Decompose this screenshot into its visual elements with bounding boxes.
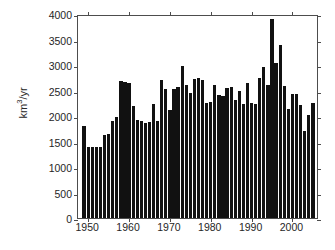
bar (99, 147, 102, 218)
bar (295, 94, 298, 218)
y-axis-tick-label: 1500 (49, 137, 72, 149)
x-axis-tick (88, 218, 89, 222)
y-axis-tick (74, 93, 78, 94)
bar (262, 67, 265, 218)
bar (283, 86, 286, 218)
bar (230, 87, 233, 218)
bar (254, 104, 257, 218)
bar (303, 131, 306, 218)
bar (107, 134, 110, 218)
y-axis-tick-label: 1000 (49, 162, 72, 174)
bar (299, 105, 302, 218)
bar (119, 81, 122, 218)
bar (103, 135, 106, 218)
bar (176, 87, 179, 218)
figure: km3/yr 05001000150020002500300035004000 … (0, 0, 335, 250)
x-axis-tick (129, 218, 130, 222)
y-axis-tick (74, 42, 78, 43)
y-axis-tick (74, 67, 78, 68)
bar (160, 80, 163, 218)
x-axis-tick (211, 218, 212, 222)
x-axis-tick-label: 1990 (239, 221, 262, 233)
y-axis-tick-labels: 05001000150020002500300035004000 (36, 15, 72, 219)
bar (311, 103, 314, 219)
y-axis-tick-label: 3000 (49, 60, 72, 72)
bar (189, 93, 192, 218)
bar (127, 83, 130, 218)
x-axis-tick-labels: 195019601970198019902000 (77, 221, 318, 241)
bar (258, 78, 261, 218)
x-axis-tick-top (252, 12, 253, 16)
x-axis-tick-top (129, 12, 130, 16)
y-axis-tick-right (317, 42, 321, 43)
bar (95, 147, 98, 218)
bar (197, 78, 200, 218)
y-axis-tick-right (317, 220, 321, 221)
bar (270, 19, 273, 218)
y-axis-tick (74, 118, 78, 119)
y-axis-tick-right (317, 16, 321, 17)
bar (291, 94, 294, 218)
bar (148, 122, 151, 218)
bar (87, 147, 90, 218)
bar (234, 100, 237, 218)
x-axis-tick-label: 1950 (76, 221, 99, 233)
y-axis-tick-label: 500 (54, 188, 72, 200)
x-axis-tick (252, 218, 253, 222)
bar (213, 85, 216, 218)
bar (250, 103, 253, 218)
y-axis-tick (74, 144, 78, 145)
bar (221, 96, 224, 218)
bar (266, 85, 269, 218)
x-axis-tick-label: 1960 (116, 221, 139, 233)
y-axis-title: km3/yr (15, 67, 29, 139)
x-axis-tick-label: 1970 (157, 221, 180, 233)
bar (132, 106, 135, 218)
x-axis-tick-top (211, 12, 212, 16)
bar (123, 82, 126, 218)
y-axis-tick-right (317, 195, 321, 196)
y-axis-tick-label: 3500 (49, 35, 72, 47)
bar (181, 66, 184, 218)
bar (91, 147, 94, 218)
x-axis-tick (170, 218, 171, 222)
x-axis-tick (292, 218, 293, 222)
y-axis-tick-right (317, 93, 321, 94)
y-axis-tick (74, 16, 78, 17)
plot-area (77, 15, 318, 219)
x-axis-tick-top (292, 12, 293, 16)
bar (172, 89, 175, 218)
bar (225, 88, 228, 218)
y-axis-title-post: /yr (17, 87, 29, 99)
bar (164, 89, 167, 218)
bar (238, 91, 241, 218)
y-axis-tick (74, 169, 78, 170)
bar (144, 123, 147, 218)
bar (217, 95, 220, 218)
bar (242, 104, 245, 218)
bar (205, 103, 208, 218)
y-axis-tick-label: 2000 (49, 111, 72, 123)
x-axis-tick-label: 1980 (198, 221, 221, 233)
x-axis-tick-top (170, 12, 171, 16)
y-axis-tick-right (317, 118, 321, 119)
bar-series (78, 16, 317, 218)
bar (246, 83, 249, 218)
x-axis-tick-label: 2000 (280, 221, 303, 233)
bar (168, 110, 171, 218)
x-axis-tick-top (88, 12, 89, 16)
bar (209, 102, 212, 218)
bar (307, 115, 310, 218)
bar (115, 117, 118, 218)
y-axis-tick-label: 0 (66, 213, 72, 225)
bar (279, 45, 282, 218)
y-axis-tick-right (317, 144, 321, 145)
bar (82, 126, 85, 218)
bar (136, 120, 139, 218)
bar (140, 121, 143, 218)
y-axis-tick-right (317, 169, 321, 170)
y-axis-tick (74, 220, 78, 221)
y-axis-tick-label: 2500 (49, 86, 72, 98)
y-axis-title-pre: km (17, 104, 29, 119)
y-axis-tick-label: 4000 (49, 9, 72, 21)
